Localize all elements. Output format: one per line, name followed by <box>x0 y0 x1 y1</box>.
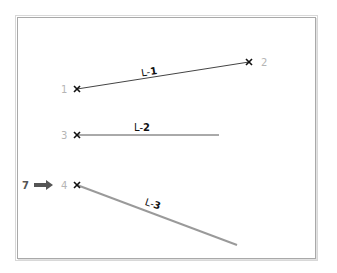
diagram-canvas: L-1 L-2 L-3 1 2 3 4 7 <box>0 0 337 273</box>
line-l3-label: L-3 <box>144 196 163 211</box>
point-2[interactable]: 2 <box>246 57 267 68</box>
point-3-label: 3 <box>61 130 67 141</box>
callout-7: 7 <box>22 180 53 191</box>
point-4-label: 4 <box>61 180 67 191</box>
point-4[interactable]: 4 <box>61 180 80 191</box>
line-l2[interactable]: L-2 <box>77 122 219 135</box>
line-l2-label: L-2 <box>134 122 150 133</box>
line-l3[interactable]: L-3 <box>77 185 237 245</box>
point-3[interactable]: 3 <box>61 130 80 141</box>
point-1-label: 1 <box>61 84 67 95</box>
point-2-label: 2 <box>261 57 267 68</box>
callout-label: 7 <box>22 180 29 191</box>
right-arrow-icon <box>34 180 53 190</box>
point-1[interactable]: 1 <box>61 84 80 95</box>
line-l1[interactable]: L-1 <box>77 62 249 89</box>
